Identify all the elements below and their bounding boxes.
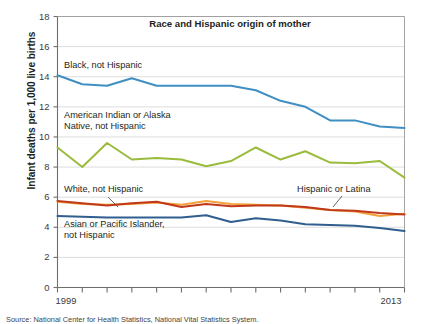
series-label-hispanic-or-latina: Hispanic or Latina [297, 184, 371, 196]
y-tick-label: 18 [28, 11, 50, 22]
y-tick-label: 10 [28, 131, 50, 142]
y-tick-label: 0 [28, 282, 50, 293]
x-tick-label: 2013 [381, 295, 402, 306]
series-label-asian-pacific-islander-line1: Asian or Pacific Islander, [64, 219, 165, 231]
series-label-asian-pacific-islander-line2: not Hispanic [64, 230, 115, 242]
y-tick-label: 12 [28, 101, 50, 112]
y-tick-label: 14 [28, 71, 50, 82]
series-label-american-indian-line2: Native, not Hispanic [64, 121, 146, 133]
y-tick-label: 4 [28, 221, 50, 232]
y-tick-label: 8 [28, 161, 50, 172]
y-tick-label: 16 [28, 41, 50, 52]
series-label-white-not-hispanic: White, not Hispanic [64, 184, 143, 196]
axis-lines [58, 17, 405, 288]
x-tick-label: 1999 [56, 295, 77, 306]
series-label-black-not-hispanic: Black, not Hispanic [64, 60, 142, 72]
y-tick-label: 6 [28, 191, 50, 202]
series-lines [58, 75, 405, 231]
chart-title: Race and Hispanic origin of mother [60, 18, 400, 29]
y-tick-marks [54, 17, 58, 288]
series-label-american-indian-line1: American Indian or Alaska [64, 110, 171, 122]
y-tick-label: 2 [28, 251, 50, 262]
source-note: Source: National Center for Health Stati… [6, 315, 258, 324]
x-tick-marks [58, 288, 405, 293]
